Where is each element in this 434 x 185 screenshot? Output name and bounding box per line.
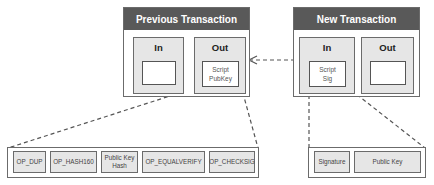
new-out-box: Out (361, 37, 414, 94)
new-in-box: In Script Sig (299, 37, 355, 94)
script-public-key: Public Key (354, 151, 421, 173)
new-out-label: Out (362, 42, 413, 53)
previous-transaction-box: Previous Transaction In Out Script PubKe… (123, 7, 250, 97)
new-in-label: In (300, 42, 354, 53)
script-op-hash160: OP_HASH160 (50, 151, 97, 173)
new-out-empty-slot (370, 61, 406, 85)
script-pubkey-line2: PubKey (209, 74, 232, 83)
previous-transaction-title: Previous Transaction (124, 8, 249, 30)
script-op-equalverify: OP_EQUALVERIFY (142, 151, 205, 173)
script-op-dup: OP_DUP (13, 151, 46, 173)
script-pubkey-box[interactable]: Script PubKey (202, 61, 239, 87)
pubkey-script-strip: OP_DUP OP_HASH160 Public Key Hash OP_EQU… (7, 147, 259, 178)
script-signature: Signature (314, 151, 350, 173)
previous-in-empty-slot (142, 61, 176, 85)
new-transaction-box: New Transaction In Script Sig Out (293, 7, 420, 97)
script-sig-box[interactable]: Script Sig (309, 61, 346, 87)
script-pubkey-line1: Script (212, 65, 229, 74)
script-public-key-hash: Public Key Hash (101, 151, 138, 173)
script-sig-line2: Sig (323, 74, 332, 83)
sig-script-strip: Signature Public Key (308, 147, 426, 178)
new-transaction-title: New Transaction (294, 8, 419, 30)
script-op-checksig: OP_CHECKSIG (209, 151, 255, 173)
script-sig-line1: Script (319, 65, 336, 74)
previous-in-label: In (134, 42, 183, 53)
previous-in-box: In (133, 37, 184, 94)
previous-out-label: Out (195, 42, 245, 53)
previous-out-box: Out Script PubKey (194, 37, 246, 94)
